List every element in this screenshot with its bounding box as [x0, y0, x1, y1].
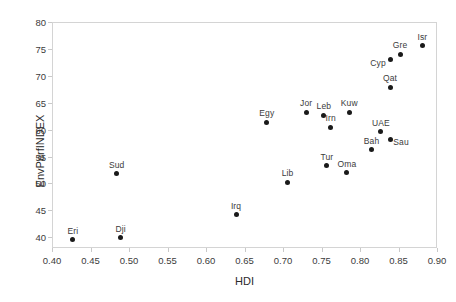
x-tick-label: 0.80 [351, 255, 370, 266]
x-tick-label: 0.40 [43, 255, 62, 266]
x-tick-mark [168, 248, 169, 252]
scatter-chart: EnvPerfINDEX EriDjiIrqSudLibOmaTurBahSau… [0, 0, 456, 302]
y-tick-label: 75 [26, 43, 46, 54]
x-tick-label: 0.85 [389, 255, 408, 266]
y-tick-label: 40 [26, 232, 46, 243]
x-tick-mark [245, 248, 246, 252]
y-tick-mark [48, 157, 52, 158]
x-tick-label: 0.70 [274, 255, 293, 266]
x-tick-mark [91, 248, 92, 252]
x-tick-label: 0.60 [197, 255, 216, 266]
y-tick-mark [48, 237, 52, 238]
x-tick-label: 0.55 [158, 255, 177, 266]
y-tick-label: 80 [26, 17, 46, 28]
y-tick-label: 55 [26, 151, 46, 162]
x-tick-label: 0.50 [120, 255, 139, 266]
x-axis-title: HDI [52, 275, 437, 287]
x-tick-label: 0.65 [235, 255, 254, 266]
x-tick-mark [129, 248, 130, 252]
x-tick-mark [206, 248, 207, 252]
x-tick-mark [52, 248, 53, 252]
y-tick-label: 65 [26, 97, 46, 108]
x-tick-label: 0.75 [312, 255, 331, 266]
plot-area [52, 22, 437, 248]
y-tick-label: 45 [26, 205, 46, 216]
y-tick-label: 70 [26, 70, 46, 81]
x-tick-label: 0.45 [81, 255, 100, 266]
y-tick-mark [48, 22, 52, 23]
y-tick-label: 50 [26, 178, 46, 189]
y-tick-mark [48, 103, 52, 104]
x-tick-label: 0.90 [428, 255, 447, 266]
y-tick-label: 60 [26, 124, 46, 135]
x-tick-mark [360, 248, 361, 252]
x-tick-mark [322, 248, 323, 252]
x-tick-mark [437, 248, 438, 252]
y-tick-mark [48, 76, 52, 77]
y-tick-mark [48, 130, 52, 131]
y-tick-mark [48, 183, 52, 184]
x-tick-mark [399, 248, 400, 252]
y-tick-mark [48, 49, 52, 50]
y-tick-mark [48, 210, 52, 211]
x-tick-mark [283, 248, 284, 252]
